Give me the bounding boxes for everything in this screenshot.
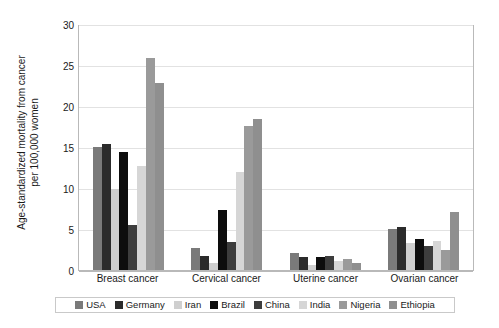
bar[interactable] bbox=[290, 253, 299, 270]
bar[interactable] bbox=[397, 227, 406, 270]
bar[interactable] bbox=[253, 119, 262, 270]
gridline bbox=[79, 271, 473, 272]
bar[interactable] bbox=[299, 257, 308, 270]
bar[interactable] bbox=[244, 126, 253, 270]
legend-item[interactable]: Germany bbox=[115, 300, 165, 310]
bar[interactable] bbox=[343, 259, 352, 270]
bar[interactable] bbox=[119, 152, 128, 270]
bar[interactable] bbox=[137, 166, 146, 270]
bar[interactable] bbox=[236, 172, 245, 270]
bar-chart-figure: Age-standardized mortality from cancer p… bbox=[0, 0, 499, 328]
legend-item[interactable]: India bbox=[299, 300, 331, 310]
bar[interactable] bbox=[200, 256, 209, 270]
y-axis-tick-label: 15 bbox=[63, 143, 74, 154]
bar[interactable] bbox=[102, 144, 111, 270]
chart-legend: USAGermanyIranBrazilChinaIndiaNigeriaEth… bbox=[55, 297, 455, 313]
y-axis-tick-label: 10 bbox=[63, 184, 74, 195]
bar-group bbox=[178, 26, 277, 270]
legend-swatch-icon bbox=[254, 301, 262, 309]
x-axis-category-label: Breast cancer bbox=[78, 273, 177, 284]
legend-label: India bbox=[310, 300, 331, 310]
bar[interactable] bbox=[415, 239, 424, 270]
y-axis-tick-label: 25 bbox=[63, 61, 74, 72]
bar[interactable] bbox=[316, 257, 325, 270]
bar[interactable] bbox=[334, 261, 343, 270]
y-axis-tick-label: 30 bbox=[63, 20, 74, 31]
y-axis-title-line-2: per 100,000 women bbox=[28, 98, 39, 186]
bar[interactable] bbox=[441, 250, 450, 270]
bar[interactable] bbox=[218, 210, 227, 270]
y-axis-tick-label: 20 bbox=[63, 102, 74, 113]
bar-group bbox=[276, 26, 375, 270]
bar[interactable] bbox=[128, 225, 137, 270]
bar[interactable] bbox=[93, 147, 102, 270]
plot-area bbox=[78, 25, 474, 271]
y-axis-title-line-1: Age-standardized mortality from cancer bbox=[16, 55, 27, 230]
legend-label: Iran bbox=[185, 300, 201, 310]
bar-group-inner bbox=[191, 26, 262, 270]
bar[interactable] bbox=[209, 263, 218, 270]
bar[interactable] bbox=[433, 241, 442, 270]
legend-item[interactable]: USA bbox=[75, 300, 106, 310]
bar[interactable] bbox=[424, 246, 433, 270]
bar[interactable] bbox=[352, 263, 361, 270]
legend-swatch-icon bbox=[210, 301, 218, 309]
x-axis-category-label: Uterine cancer bbox=[276, 273, 375, 284]
legend-item[interactable]: Brazil bbox=[210, 300, 245, 310]
bar-group bbox=[79, 26, 178, 270]
y-axis-title: Age-standardized mortality from cancer p… bbox=[0, 0, 56, 285]
bar[interactable] bbox=[388, 229, 397, 270]
legend-swatch-icon bbox=[174, 301, 182, 309]
legend-label: Germany bbox=[126, 300, 165, 310]
legend-item[interactable]: Ethiopia bbox=[389, 300, 434, 310]
bar[interactable] bbox=[450, 212, 459, 270]
y-axis-tick-label: 0 bbox=[68, 266, 74, 277]
bar[interactable] bbox=[325, 256, 334, 270]
legend-label: Brazil bbox=[221, 300, 245, 310]
legend-swatch-icon bbox=[339, 301, 347, 309]
bar[interactable] bbox=[308, 265, 317, 270]
bar-groups bbox=[79, 26, 473, 270]
legend-swatch-icon bbox=[299, 301, 307, 309]
legend-swatch-icon bbox=[75, 301, 83, 309]
legend-item[interactable]: China bbox=[254, 300, 290, 310]
bar-group-inner bbox=[290, 26, 361, 270]
bar[interactable] bbox=[146, 58, 155, 270]
x-axis-category-label: Cervical cancer bbox=[177, 273, 276, 284]
x-axis-category-labels: Breast cancerCervical cancerUterine canc… bbox=[78, 273, 474, 284]
legend-label: USA bbox=[86, 300, 106, 310]
bar[interactable] bbox=[111, 189, 120, 270]
bar[interactable] bbox=[227, 242, 236, 270]
legend-swatch-icon bbox=[115, 301, 123, 309]
x-axis-category-label: Ovarian cancer bbox=[375, 273, 474, 284]
legend-label: Nigeria bbox=[350, 300, 380, 310]
bar-group-inner bbox=[93, 26, 164, 270]
bar[interactable] bbox=[155, 83, 164, 270]
bar[interactable] bbox=[191, 248, 200, 270]
legend-swatch-icon bbox=[389, 301, 397, 309]
legend-label: Ethiopia bbox=[400, 300, 434, 310]
bar-group bbox=[375, 26, 474, 270]
y-axis-tick-labels: 051015202530 bbox=[50, 25, 74, 271]
y-axis-tick-label: 5 bbox=[68, 225, 74, 236]
legend-item[interactable]: Iran bbox=[174, 300, 201, 310]
bar-group-inner bbox=[388, 26, 459, 270]
bar[interactable] bbox=[406, 243, 415, 270]
legend-item[interactable]: Nigeria bbox=[339, 300, 380, 310]
legend-label: China bbox=[265, 300, 290, 310]
